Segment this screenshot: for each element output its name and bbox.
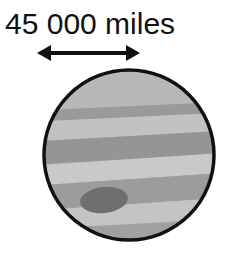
- measurement-label: 45 000 miles: [5, 8, 175, 40]
- arrow-head-right: [126, 45, 140, 61]
- dimension-arrow: [30, 40, 150, 66]
- planet-illustration: [38, 64, 222, 248]
- arrow-head-left: [37, 45, 51, 61]
- arrow-group: [37, 45, 140, 61]
- arrow-shaft: [48, 51, 130, 55]
- planet-bands: [38, 65, 222, 248]
- figure-canvas: 45 000 miles: [0, 0, 233, 264]
